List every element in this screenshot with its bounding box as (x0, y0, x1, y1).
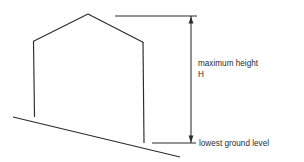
sloping-ground-line (13, 117, 180, 157)
house-right-wall (143, 42, 144, 143)
roof-left-slope (33, 14, 88, 42)
arrow-down-icon (189, 136, 194, 143)
arrow-up-icon (189, 17, 194, 24)
house-left-wall (34, 41, 35, 117)
maximum-height-label-line2: H (198, 70, 204, 79)
lowest-ground-level-label: lowest ground level (199, 139, 269, 148)
roof-right-slope (88, 14, 144, 43)
maximum-height-label-line1: maximum height (198, 59, 259, 68)
height-diagram-svg: maximum height H lowest ground level (0, 0, 304, 162)
diagram-canvas: maximum height H lowest ground level (0, 0, 304, 162)
